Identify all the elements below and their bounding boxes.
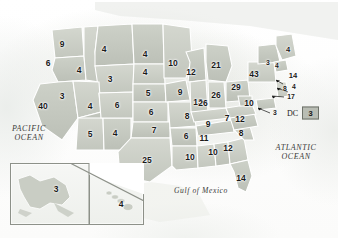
pacific-ocean-label: PACIFICOCEAN (12, 124, 46, 142)
state-value-arkansas: 6 (184, 132, 189, 141)
state-value-mississippi: 11 (200, 134, 209, 143)
state-value-new-jersey: 17 (287, 94, 295, 101)
state-value-indiana: 26 (211, 91, 220, 100)
state-value-ohio: 29 (231, 83, 240, 92)
state-value-montana: 4 (102, 45, 107, 54)
state-value-new-mexico: 4 (113, 129, 118, 138)
state-value-georgia: 12 (223, 144, 232, 153)
state-wyoming (95, 64, 134, 93)
state-value-north-dakota: 4 (143, 50, 148, 59)
state-south-dakota (133, 64, 165, 84)
state-value-florida: 14 (236, 174, 245, 183)
state-value-utah: 4 (88, 102, 93, 111)
state-value-tennessee: 9 (206, 120, 211, 129)
state-washington (52, 27, 84, 58)
pacific-ocean-label-line2: OCEAN (12, 133, 46, 142)
state-value-michigan: 21 (211, 61, 220, 70)
state-value-wisconsin: 12 (186, 68, 195, 77)
dc-legend: DC 3 (287, 107, 319, 120)
state-value-south-carolina: 8 (239, 129, 244, 138)
state-value-colorado: 6 (115, 101, 120, 110)
state-value-pennsylvania: 43 (249, 70, 258, 79)
state-value-nebraska: 5 (146, 89, 151, 98)
state-value-vermont: 4 (275, 63, 279, 70)
state-north-dakota (132, 24, 164, 64)
atlantic-ocean-label-line1: ATLANTIC (276, 143, 317, 152)
atlantic-ocean-label-line2: OCEAN (276, 152, 317, 161)
state-value-north-carolina: 12 (235, 115, 244, 124)
dc-value-box: 3 (302, 107, 319, 120)
state-value-idaho: 4 (77, 66, 82, 75)
state-value-minnesota: 10 (168, 59, 177, 68)
gulf-of-mexico-label-line1: Gulf of Mexico (174, 186, 228, 195)
state-value-south-dakota: 4 (143, 68, 148, 77)
state-value-missouri: 8 (185, 112, 190, 121)
state-value-oklahoma: 7 (152, 126, 157, 135)
alaska-value: 3 (54, 185, 59, 194)
state-value-arizona: 5 (88, 130, 93, 139)
state-value-maine: 4 (286, 46, 290, 54)
state-value-connecticut: 8 (283, 86, 287, 93)
alaska-hawaii-inset: 3 4 (10, 163, 144, 225)
us-electoral-map: 9644344564034546725109861012132126269111… (0, 0, 338, 238)
state-value-kentucky: 26 (198, 99, 207, 108)
state-value-rhode-island: 4 (292, 84, 296, 91)
state-value-west-virginia: 10 (244, 99, 253, 108)
state-value-wyoming: 3 (108, 75, 113, 84)
state-value-maryland: 3 (273, 110, 277, 117)
state-value-louisiana: 10 (185, 153, 194, 162)
state-value-new-york: 3 (266, 60, 270, 67)
hawaii-value: 4 (119, 200, 124, 209)
state-value-oregon: 6 (46, 59, 51, 68)
state-value-nevada: 3 (60, 92, 65, 101)
state-value-virginia: 7 (225, 114, 230, 123)
state-value-iowa: 9 (178, 88, 183, 97)
state-oklahoma (131, 122, 170, 138)
atlantic-ocean-label: ATLANTICOCEAN (276, 143, 317, 161)
inset-diagonal-border (10, 163, 144, 225)
state-value-california: 40 (38, 102, 47, 111)
state-value-washington: 9 (60, 40, 65, 49)
state-value-massachusetts: 14 (289, 72, 297, 80)
state-nevada (73, 81, 101, 118)
state-value-alabama: 10 (208, 148, 217, 157)
dc-label: DC (287, 109, 298, 118)
state-value-kansas: 6 (149, 108, 154, 117)
gulf-of-mexico-label: Gulf of Mexico (174, 186, 228, 195)
pacific-ocean-label-line1: PACIFIC (12, 124, 46, 133)
